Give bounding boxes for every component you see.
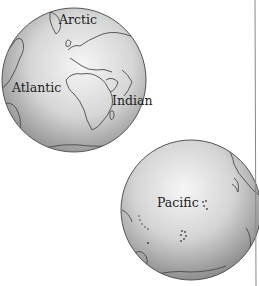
label-arctic: Arctic: [58, 12, 97, 27]
globe-atlantic: Arctic Atlantic Indian: [2, 8, 153, 152]
label-pacific: Pacific: [157, 195, 199, 210]
divider-line: [255, 0, 256, 286]
label-indian: Indian: [112, 93, 153, 108]
globe-pacific: Pacific: [121, 140, 259, 280]
label-atlantic: Atlantic: [11, 80, 61, 95]
globes-illustration: Arctic Atlantic Indian Pacific: [0, 0, 259, 286]
